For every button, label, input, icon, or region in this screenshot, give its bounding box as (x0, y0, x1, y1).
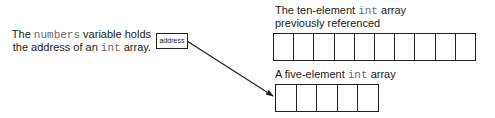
arrow-line (187, 41, 273, 96)
reference-arrow (0, 0, 495, 118)
